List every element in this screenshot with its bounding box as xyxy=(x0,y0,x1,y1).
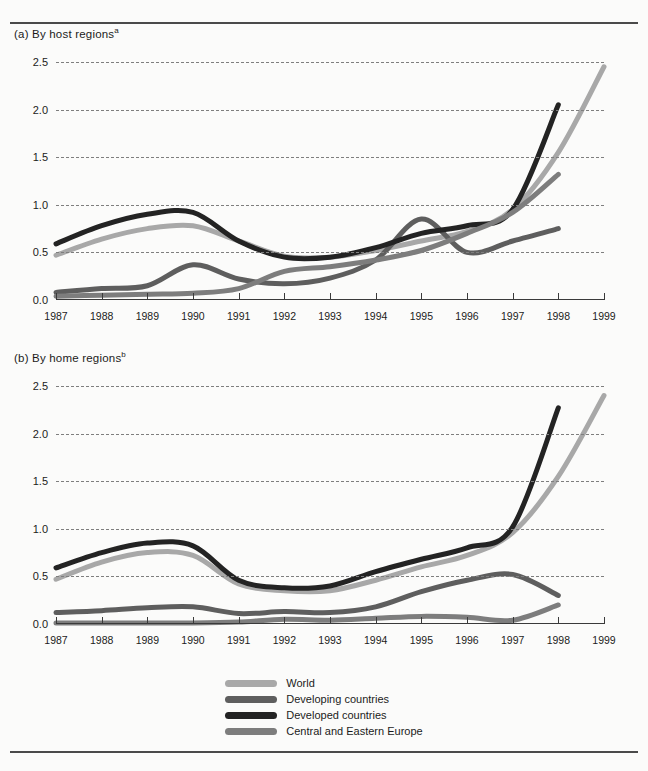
x-axis-tick-label: 1999 xyxy=(592,310,615,322)
panel-host-regions: (a) By host regionsa 0.00.51.01.52.02.5 … xyxy=(0,26,648,344)
x-axis-tick-label: 1993 xyxy=(318,634,341,646)
x-axis-tick-label: 1997 xyxy=(501,310,524,322)
x-axis-tick-mark xyxy=(558,617,559,624)
x-axis-tick-label: 1989 xyxy=(136,310,159,322)
legend-item-label: Developed countries xyxy=(286,709,386,721)
panel-a-title-text: (a) By host regions xyxy=(14,28,114,40)
gridline xyxy=(56,205,604,206)
x-axis-tick-mark xyxy=(239,293,240,300)
figure-container: (a) By host regionsa 0.00.51.01.52.02.5 … xyxy=(0,0,648,771)
panel-a-title: (a) By host regionsa xyxy=(14,26,119,40)
x-axis-tick-mark xyxy=(558,293,559,300)
x-axis-tick-mark xyxy=(330,617,331,624)
series-lines-a xyxy=(56,62,604,300)
x-axis-tick-label: 1998 xyxy=(547,634,570,646)
legend-item[interactable]: Developed countries xyxy=(225,708,422,722)
x-axis-labels-b: 1987198819891990199119921993199419951996… xyxy=(56,628,604,648)
gridline xyxy=(56,576,604,577)
series-line xyxy=(56,105,558,259)
legend-item-label: Central and Eastern Europe xyxy=(286,725,422,737)
x-axis-tick-mark xyxy=(376,617,377,624)
y-axis-tick-label: 0.0 xyxy=(33,618,48,630)
x-axis-tick-label: 1996 xyxy=(455,634,478,646)
gridline xyxy=(56,529,604,530)
series-lines-b xyxy=(56,386,604,624)
x-axis-tick-mark xyxy=(193,293,194,300)
x-axis-tick-label: 1992 xyxy=(273,634,296,646)
gridline xyxy=(56,481,604,482)
panel-a-footnote-marker: a xyxy=(114,26,119,35)
x-axis-tick-mark xyxy=(421,617,422,624)
x-axis-tick-label: 1995 xyxy=(410,310,433,322)
x-axis-tick-mark xyxy=(604,293,605,300)
x-axis-tick-label: 1993 xyxy=(318,310,341,322)
y-axis-tick-label: 1.0 xyxy=(33,199,48,211)
x-axis-tick-label: 1995 xyxy=(410,634,433,646)
y-axis-tick-label: 0.5 xyxy=(33,570,48,582)
x-axis-tick-mark xyxy=(147,617,148,624)
series-line xyxy=(56,174,558,296)
panel-home-regions: (b) By home regionsb 0.00.51.01.52.02.5 … xyxy=(0,350,648,670)
legend-swatch-icon xyxy=(225,696,277,703)
x-axis-tick-mark xyxy=(102,293,103,300)
bottom-divider-rule xyxy=(10,751,638,753)
x-axis-tick-label: 1998 xyxy=(547,310,570,322)
legend-item[interactable]: World xyxy=(225,676,422,690)
x-axis-tick-mark xyxy=(513,293,514,300)
y-axis-tick-label: 1.0 xyxy=(33,523,48,535)
x-axis-tick-mark xyxy=(56,293,57,300)
x-axis-tick-label: 1987 xyxy=(44,310,67,322)
x-axis-tick-mark xyxy=(513,617,514,624)
y-axis-tick-label: 2.0 xyxy=(33,428,48,440)
x-axis-tick-label: 1991 xyxy=(227,634,250,646)
legend-item[interactable]: Central and Eastern Europe xyxy=(225,724,422,738)
gridline xyxy=(56,157,604,158)
x-axis-tick-label: 1992 xyxy=(273,310,296,322)
plot-canvas-b: 0.00.51.01.52.02.5 xyxy=(56,386,604,624)
series-line xyxy=(56,396,604,592)
y-axis-tick-label: 0.5 xyxy=(33,246,48,258)
y-axis-tick-label: 1.5 xyxy=(33,475,48,487)
gridline xyxy=(56,434,604,435)
x-axis-tick-label: 1994 xyxy=(364,634,387,646)
chart-legend: WorldDeveloping countriesDeveloped count… xyxy=(0,676,648,738)
legend-items: WorldDeveloping countriesDeveloped count… xyxy=(225,676,422,738)
x-axis-tick-mark xyxy=(284,617,285,624)
x-axis-tick-label: 1996 xyxy=(455,310,478,322)
x-axis-tick-label: 1999 xyxy=(592,634,615,646)
x-axis-tick-mark xyxy=(330,293,331,300)
panel-b-footnote-marker: b xyxy=(121,350,126,359)
panel-b-title-text: (b) By home regions xyxy=(14,352,121,364)
x-axis-tick-mark xyxy=(376,293,377,300)
x-axis-tick-label: 1988 xyxy=(90,310,113,322)
legend-swatch-icon xyxy=(225,712,277,719)
x-axis-tick-mark xyxy=(467,617,468,624)
panel-b-title: (b) By home regionsb xyxy=(14,350,126,364)
plot-canvas-a: 0.00.51.01.52.02.5 xyxy=(56,62,604,300)
x-axis-tick-label: 1994 xyxy=(364,310,387,322)
top-divider-rule xyxy=(10,22,638,24)
y-axis-tick-label: 1.5 xyxy=(33,151,48,163)
x-axis-tick-mark xyxy=(239,617,240,624)
plot-area-b: 0.00.51.01.52.02.5 xyxy=(56,386,604,624)
legend-item[interactable]: Developing countries xyxy=(225,692,422,706)
x-axis-tick-label: 1990 xyxy=(181,634,204,646)
gridline xyxy=(56,252,604,253)
x-axis-tick-label: 1989 xyxy=(136,634,159,646)
x-axis-tick-label: 1991 xyxy=(227,310,250,322)
plot-area-a: 0.00.51.01.52.02.5 xyxy=(56,62,604,300)
x-axis-tick-mark xyxy=(421,293,422,300)
series-line xyxy=(56,408,558,588)
series-line xyxy=(56,67,604,258)
y-axis-tick-label: 0.0 xyxy=(33,294,48,306)
x-axis-tick-mark xyxy=(193,617,194,624)
x-axis-tick-label: 1987 xyxy=(44,634,67,646)
x-axis-labels-a: 1987198819891990199119921993199419951996… xyxy=(56,304,604,324)
x-axis-tick-mark xyxy=(56,617,57,624)
x-axis-tick-mark xyxy=(147,293,148,300)
x-axis-tick-label: 1990 xyxy=(181,310,204,322)
x-axis-tick-mark xyxy=(284,293,285,300)
gridline xyxy=(56,386,604,387)
legend-item-label: World xyxy=(286,677,315,689)
x-axis-tick-label: 1997 xyxy=(501,634,524,646)
